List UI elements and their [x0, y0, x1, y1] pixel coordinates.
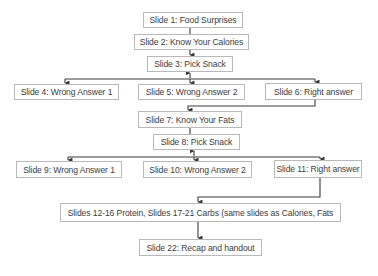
node-label: Slide 9: Wrong Answer 1	[23, 165, 115, 175]
node-label: Slide 5: Wrong Answer 2	[146, 87, 238, 97]
node-slide10: Slide 10: Wrong Answer 2	[143, 161, 252, 178]
node-slides12-21: Slides 12-16 Protein, Slides 17-21 Carbs…	[60, 203, 341, 222]
edge-slide6-slide7	[188, 100, 315, 110]
node-slide7: Slide 7: Know Your Fats	[138, 111, 242, 128]
node-slide4: Slide 4: Wrong Answer 1	[14, 84, 119, 100]
node-slide2: Slide 2: Know Your Calories	[134, 34, 249, 50]
node-label: Slide 22: Recap and handout	[146, 243, 254, 253]
node-label: Slide 3: Pick Snack	[154, 59, 226, 69]
node-label: Slide 8: Pick Snack	[161, 137, 233, 147]
node-slide22: Slide 22: Recap and handout	[139, 239, 262, 256]
node-label: Slide 11: Right answer	[276, 164, 359, 174]
node-slide6: Slide 6: Right answer	[265, 83, 362, 100]
node-slide9: Slide 9: Wrong Answer 1	[16, 161, 122, 178]
node-label: Slide 2: Know Your Calories	[140, 37, 243, 47]
node-label: Slide 10: Wrong Answer 2	[149, 165, 245, 175]
node-label: Slide 6: Right answer	[274, 87, 353, 97]
node-label: Slide 7: Know Your Fats	[146, 115, 235, 125]
node-label: Slides 12-16 Protein, Slides 17-21 Carbs…	[68, 208, 334, 218]
node-slide11: Slide 11: Right answer	[274, 160, 362, 178]
flowchart-canvas: Slide 1: Food Surprises Slide 2: Know Yo…	[0, 0, 378, 276]
node-label: Slide 1: Food Surprises	[149, 15, 236, 25]
node-slide8: Slide 8: Pick Snack	[153, 134, 240, 150]
node-slide3: Slide 3: Pick Snack	[147, 56, 233, 72]
node-slide1: Slide 1: Food Surprises	[143, 12, 243, 28]
edge-slide11-slides12-21	[198, 178, 320, 202]
node-label: Slide 4: Wrong Answer 1	[21, 87, 113, 97]
node-slide5: Slide 5: Wrong Answer 2	[138, 84, 245, 100]
